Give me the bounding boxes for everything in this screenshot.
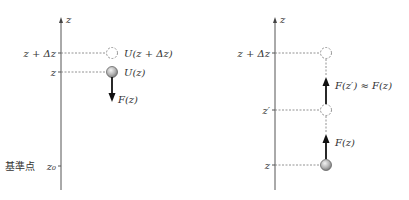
right-ball — [321, 160, 332, 171]
right-upper-force-arrowhead-icon — [323, 77, 330, 86]
right-ghost-circle-middle — [321, 105, 332, 116]
left-force-arrowhead-icon — [109, 93, 116, 102]
work-diagram: z z + Δz z z₀ 基準点 U(z + Δz) U(z) F(z) z … — [0, 0, 409, 200]
left-tick-label-z: z — [50, 67, 57, 78]
right-panel: z z + Δz z′ z F(z′) ≈ F(z) F(z) — [237, 14, 393, 190]
left-axis-arrowhead-icon — [59, 17, 63, 23]
right-tick-label-z-plus-dz: z + Δz — [237, 48, 271, 59]
left-axis-label: z — [65, 14, 72, 25]
left-ghost-position-circle — [107, 48, 118, 59]
right-tick-label-z: z — [264, 160, 271, 171]
left-ball — [107, 67, 118, 78]
left-force-label: F(z) — [117, 94, 138, 105]
right-axis-label: z — [279, 14, 286, 25]
left-ball-label: U(z) — [124, 67, 146, 78]
reference-point-label: 基準点 — [5, 160, 35, 172]
right-tick-label-z-prime: z′ — [261, 105, 270, 116]
right-lower-force-arrowhead-icon — [323, 134, 330, 143]
right-ghost-circle-top — [321, 48, 332, 59]
left-ghost-label: U(z + Δz) — [124, 48, 173, 59]
left-tick-label-z-plus-dz: z + Δz — [23, 48, 57, 59]
right-axis-arrowhead-icon — [273, 17, 277, 23]
right-lower-force-label: F(z) — [334, 137, 355, 148]
left-tick-label-z0: z₀ — [46, 161, 56, 172]
left-panel: z z + Δz z z₀ 基準点 U(z + Δz) U(z) F(z) — [5, 14, 173, 190]
right-upper-force-label: F(z′) ≈ F(z) — [334, 80, 392, 91]
